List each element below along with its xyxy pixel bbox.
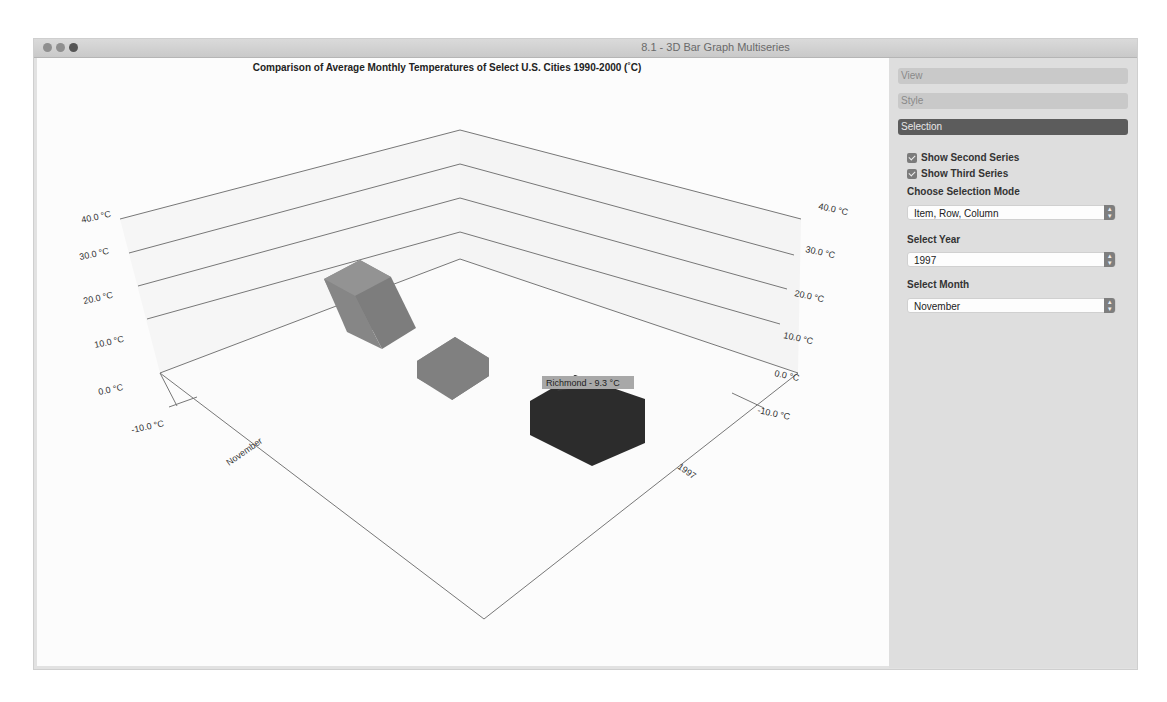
checkbox-checked-icon[interactable] — [907, 153, 917, 163]
title-bar[interactable]: 8.1 - 3D Bar Graph Multiseries — [34, 39, 1137, 58]
axis-label: -10.0 °C — [757, 405, 792, 422]
select-value: 1997 — [914, 255, 936, 266]
select-month-label: Select Month — [907, 279, 969, 290]
section-view[interactable]: View — [898, 68, 1128, 84]
month-select[interactable]: November ▴▾ — [907, 298, 1116, 313]
year-select[interactable]: 1997 ▴▾ — [907, 252, 1116, 267]
column-label: 1997 — [676, 461, 698, 481]
axis-label: 0.0 °C — [97, 382, 124, 397]
plot-canvas[interactable]: 40.0 °C 30.0 °C 20.0 °C 10.0 °C 0.0 °C -… — [37, 58, 889, 666]
checkbox-checked-icon[interactable] — [907, 169, 917, 179]
updown-chevron-icon[interactable]: ▴▾ — [1104, 252, 1115, 267]
axis-label: -10.0 °C — [130, 418, 165, 435]
selection-tooltip: Richmond - 9.3 °C — [542, 376, 634, 389]
bar-graph-3d[interactable]: Comparison of Average Monthly Temperatur… — [37, 58, 889, 666]
svg-text:Richmond - 9.3 °C: Richmond - 9.3 °C — [546, 378, 620, 388]
updown-chevron-icon[interactable]: ▴▾ — [1104, 298, 1115, 313]
axis-label: 10.0 °C — [93, 334, 125, 350]
axis-label: 40.0 °C — [818, 201, 850, 217]
show-second-series-checkbox[interactable]: Show Second Series — [907, 152, 1019, 163]
show-third-series-checkbox[interactable]: Show Third Series — [907, 168, 1008, 179]
settings-panel: View Style Selection Show Second Series … — [889, 58, 1137, 668]
select-year-label: Select Year — [907, 234, 960, 245]
axis-label: 30.0 °C — [78, 246, 110, 262]
updown-chevron-icon[interactable]: ▴▾ — [1104, 205, 1115, 220]
selection-mode-label: Choose Selection Mode — [907, 186, 1020, 197]
axis-label: 30.0 °C — [805, 244, 837, 260]
axis-label: 20.0 °C — [82, 290, 114, 306]
select-value: Item, Row, Column — [914, 208, 998, 219]
app-window: 8.1 - 3D Bar Graph Multiseries Compariso… — [33, 38, 1138, 670]
section-style[interactable]: Style — [898, 93, 1128, 109]
checkbox-label: Show Second Series — [921, 152, 1019, 163]
checkbox-label: Show Third Series — [921, 168, 1008, 179]
window-title: 8.1 - 3D Bar Graph Multiseries — [34, 41, 1137, 53]
row-label: November — [224, 436, 264, 468]
section-selection[interactable]: Selection — [898, 119, 1128, 135]
axis-label: 40.0 °C — [80, 209, 112, 225]
select-value: November — [914, 301, 960, 312]
selection-mode-select[interactable]: Item, Row, Column ▴▾ — [907, 205, 1116, 220]
